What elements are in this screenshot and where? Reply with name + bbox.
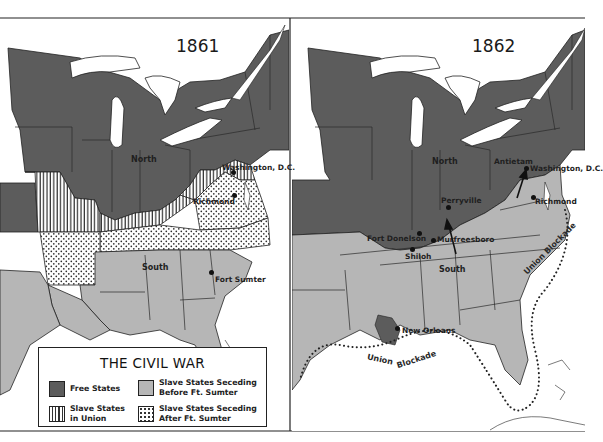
- region-label-south-1862: South: [439, 265, 465, 274]
- region-label-north-1862: North: [432, 157, 458, 166]
- free-states-swatch: [49, 381, 65, 397]
- region-label-north: North: [131, 155, 157, 164]
- legend-label: Slave States Seceding Before Ft. Sumter: [159, 378, 257, 397]
- legend-item-seceding-after: Slave States Seceding After Ft. Sumter: [138, 404, 257, 423]
- seceding-after-swatch: [138, 406, 154, 422]
- place-label-shiloh: Shiloh: [405, 252, 431, 261]
- legend-title: THE CIVIL WAR: [39, 355, 266, 371]
- city-marker-new-orleans: [395, 326, 400, 331]
- city-marker-washington-1862: [524, 166, 529, 171]
- place-label-fort-donelson: Fort Donelson: [367, 234, 426, 243]
- region-label-south: South: [142, 263, 168, 272]
- place-label-richmond-1862: Richmond: [535, 197, 577, 206]
- map-title-1861: 1861: [176, 36, 219, 56]
- place-label-washington-1862: Washington, D.C.: [530, 164, 603, 173]
- legend: THE CIVIL WAR Free States Slave States S…: [38, 347, 267, 427]
- place-label-antietam: Antietam: [494, 157, 533, 166]
- legend-label: Free States: [70, 384, 120, 394]
- seceding-before-swatch: [138, 380, 154, 396]
- place-label-new-orleans: New Orleans: [402, 326, 456, 335]
- city-marker-murfreesboro: [431, 238, 436, 243]
- city-marker-fort-sumter: [209, 270, 214, 275]
- place-label-fort-sumter: Fort Sumter: [215, 275, 266, 284]
- legend-label: Slave States in Union: [70, 404, 125, 423]
- place-label-washington: Washington, D.C.: [222, 163, 295, 172]
- legend-item-seceding-before: Slave States Seceding Before Ft. Sumter: [138, 378, 257, 397]
- legend-label: Slave States Seceding After Ft. Sumter: [159, 404, 257, 423]
- legend-item-free-states: Free States: [49, 381, 120, 397]
- city-marker-perryville: [446, 205, 451, 210]
- map-1862: [292, 19, 585, 431]
- map-title-1862: 1862: [472, 36, 515, 56]
- legend-item-slave-in-union: Slave States in Union: [49, 404, 125, 423]
- slave-in-union-swatch: [49, 406, 65, 422]
- place-label-murfreesboro: Murfreesboro: [437, 235, 494, 244]
- place-label-richmond: Richmond: [193, 197, 235, 206]
- place-label-perryville: Perryville: [441, 196, 482, 205]
